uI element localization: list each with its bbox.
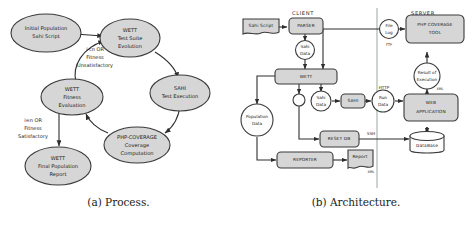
node-run-data-line-0: Run (379, 95, 387, 100)
node-coverage-line-0: PHP-COVERAGE (117, 134, 157, 140)
edge-wett-to-population (257, 76, 275, 104)
node-initial-population[interactable]: Initial Population Sahi Script (11, 14, 81, 52)
node-wett-fitness-evaluation[interactable]: WETT Fitness Evaluation (41, 79, 103, 115)
subfigure-caption-architecture: (b) Architecture. (237, 196, 475, 208)
edge-label-exit: i=n OR Fitness Satisfactory (18, 117, 48, 140)
node-fitness-line-2: Evaluation (59, 102, 86, 108)
node-report-line-0: WETT (51, 155, 66, 161)
node-sahi-script-label: Sahi Script (249, 23, 274, 28)
node-result-line-1: Execution (417, 77, 438, 82)
zone-label-client: CLIENT (292, 10, 314, 16)
node-run-data[interactable]: Run Data (372, 90, 394, 112)
node-file-log-annotation: FTP (386, 43, 392, 47)
node-reporter[interactable]: REPORTER (277, 152, 333, 168)
process-diagram-svg: Initial Population Sahi Script WETT Test… (0, 0, 237, 192)
node-population-data[interactable]: Population Data (241, 104, 273, 136)
node-wett[interactable]: WETT (275, 69, 337, 84)
subfigure-caption-process: (a) Process. (0, 196, 237, 208)
node-sahi-label: SAHI (348, 98, 359, 103)
node-sahi-data-top[interactable]: Sahi Data (296, 41, 315, 60)
node-report[interactable]: Report XML (348, 150, 375, 174)
node-result-line-0: Result of (418, 70, 437, 75)
exit-label-line-0: i=n OR (24, 117, 42, 123)
node-evolution-line-2: Evolution (118, 43, 142, 49)
architecture-diagram-svg: CLIENT SERVER (237, 0, 475, 192)
node-sahi-data-top-line-0: Sahi (300, 44, 309, 49)
node-sahi-script[interactable]: Sahi Script (243, 19, 279, 34)
node-population-data-line-0: Population (246, 114, 268, 119)
node-initial-population-line-0: Initial Population (25, 25, 67, 32)
node-population-data-line-1: Data (252, 121, 262, 126)
node-php-coverage-computation[interactable]: PHP-COVERAGE Coverage Computation (104, 127, 170, 163)
exit-label-line-1: Fitness (24, 125, 42, 131)
node-report-label: Report (352, 154, 367, 159)
node-web-application[interactable]: WEB APPLICATION (404, 94, 458, 121)
node-php-tool-line-1: TOOL (428, 30, 442, 35)
node-sahi-data-top-line-1: Data (300, 51, 310, 56)
node-fitness-line-0: WETT (65, 86, 80, 92)
node-sahi-exec-line-1: Test Execution (161, 93, 199, 99)
node-wett-label: WETT (300, 74, 313, 79)
subfigure-architecture: CLIENT SERVER (237, 0, 475, 227)
node-initial-population-line-1: Sahi Script (32, 33, 59, 40)
node-reporter-label: REPORTER (293, 157, 317, 162)
loop-label-line-2: Unsatisfactory (77, 62, 113, 69)
node-reset-db[interactable]: RESET DB (320, 131, 359, 147)
node-coverage-line-2: Computation (121, 150, 154, 157)
node-evolution-line-1: Test Suite (117, 35, 143, 41)
node-php-tool-line-0: PHP COVERAGE (417, 22, 452, 27)
node-fitness-line-1: Fitness (63, 94, 81, 100)
exit-label-line-2: Satisfactory (18, 133, 48, 140)
node-parser-label: PARSER (297, 23, 315, 28)
node-sahi-exec-line-0: SAHI (174, 85, 186, 91)
node-report-annotation: XML (368, 170, 375, 174)
node-sahi-test-execution[interactable]: SAHI Test Execution (150, 75, 210, 111)
node-junction[interactable] (293, 94, 305, 106)
node-report-line-2: Report (50, 171, 67, 178)
subfigure-process: Initial Population Sahi Script WETT Test… (0, 0, 237, 227)
node-file-log-line-0: File (385, 23, 392, 28)
node-coverage-line-1: Coverage (125, 142, 149, 149)
node-webapp-line-0: WEB (426, 100, 436, 105)
protocol-label-ssh: SSH (367, 131, 375, 136)
node-evolution-line-0: WETT (123, 27, 138, 33)
loop-label-line-1: Fitness (86, 54, 104, 60)
node-wett-test-suite-evolution[interactable]: WETT Test Suite Evolution (100, 19, 160, 57)
node-result-annotation: XML (437, 87, 444, 91)
node-sahi[interactable]: SAHI (341, 94, 365, 108)
node-file-log-line-1: Log (385, 30, 393, 35)
edge-coverage-to-fitness (86, 114, 108, 133)
node-parser[interactable]: PARSER (289, 18, 323, 34)
loop-label-line-0: i<n OR (86, 46, 104, 52)
node-database-label: DataBase (416, 143, 438, 148)
node-database[interactable]: DataBase (410, 132, 444, 154)
protocol-label-http: HTTP (379, 85, 390, 90)
node-result-of-execution[interactable]: Result of Execution XML (414, 63, 444, 91)
edge-population-to-reporter (257, 137, 276, 160)
node-file-log[interactable]: File Log FTP (380, 20, 399, 47)
node-report-line-1: Final Population (38, 163, 78, 170)
node-webapp-line-1: APPLICATION (416, 109, 446, 114)
node-sahi-data-mid-line-0: Sahi (316, 95, 325, 100)
edge-junction-to-resetdb (299, 106, 319, 139)
figure-root: Initial Population Sahi Script WETT Test… (0, 0, 475, 227)
node-reset-db-label: RESET DB (328, 136, 351, 141)
node-sahi-data-mid[interactable]: Sahi Data (311, 91, 331, 111)
node-php-coverage-tool[interactable]: PHP COVERAGE TOOL (406, 15, 464, 43)
node-wett-final-population-report[interactable]: WETT Final Population Report (25, 147, 91, 185)
node-run-data-line-1: Data (378, 102, 388, 107)
node-sahi-data-mid-line-1: Data (316, 102, 326, 107)
edge-evolution-to-sahi (155, 52, 178, 78)
